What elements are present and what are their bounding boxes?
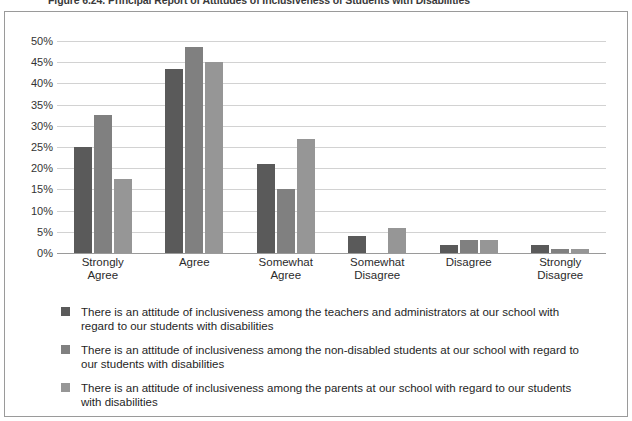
y-axis-tick-label: 10% (15, 205, 53, 216)
bar[interactable] (94, 115, 112, 253)
bar[interactable] (185, 47, 203, 253)
legend-item[interactable]: There is an attitude of inclusiveness am… (61, 343, 581, 371)
legend-swatch-icon (61, 383, 70, 392)
x-axis-category-label: StronglyAgree (57, 256, 149, 282)
y-axis-tick-label: 40% (15, 78, 53, 89)
y-axis-tick-label: 35% (15, 99, 53, 110)
bar[interactable] (74, 147, 92, 253)
y-axis-tick-label: 50% (15, 36, 53, 47)
x-axis-category-label: SomewhatDisagree (332, 256, 424, 282)
bar[interactable] (114, 179, 132, 253)
y-axis-tick-label: 30% (15, 120, 53, 131)
legend-swatch-icon (61, 307, 70, 316)
legend-item[interactable]: There is an attitude of inclusiveness am… (61, 381, 581, 409)
x-axis-category-line: Somewhat (332, 256, 424, 269)
bar[interactable] (440, 245, 458, 253)
bar-groups (57, 41, 606, 253)
bar[interactable] (165, 69, 183, 253)
x-axis-category-label: Disagree (423, 256, 515, 282)
y-axis-tick-label: 20% (15, 163, 53, 174)
bar[interactable] (480, 240, 498, 253)
x-axis-category-line: Agree (240, 269, 332, 282)
y-axis-tick-label: 0% (15, 248, 53, 259)
legend-item[interactable]: There is an attitude of inclusiveness am… (61, 305, 581, 333)
plot-area (57, 41, 606, 253)
bar[interactable] (551, 249, 569, 253)
x-axis-category-line: Disagree (423, 256, 515, 269)
x-axis-category-label: StronglyDisagree (515, 256, 607, 282)
x-axis-category-line: Agree (57, 269, 149, 282)
x-axis-category-label: SomewhatAgree (240, 256, 332, 282)
bar[interactable] (388, 228, 406, 253)
legend-swatch-icon (61, 345, 70, 354)
bar[interactable] (205, 62, 223, 253)
x-axis: StronglyAgreeAgreeSomewhatAgreeSomewhatD… (57, 256, 606, 282)
x-axis-category-line: Strongly (515, 256, 607, 269)
y-axis-tick-label: 5% (15, 226, 53, 237)
x-axis-category-line: Somewhat (240, 256, 332, 269)
bar-group (423, 41, 515, 253)
bar-group (515, 41, 607, 253)
bar[interactable] (297, 139, 315, 253)
bar[interactable] (571, 249, 589, 253)
y-axis-tick-label: 45% (15, 57, 53, 68)
y-axis-tick-label: 25% (15, 142, 53, 153)
legend-item-label: There is an attitude of inclusiveness am… (81, 343, 581, 371)
chart-legend: There is an attitude of inclusiveness am… (61, 305, 581, 419)
figure-caption: Figure 6.24. Principal Report of Attitud… (48, 0, 608, 7)
legend-item-label: There is an attitude of inclusiveness am… (81, 381, 581, 409)
bar[interactable] (277, 189, 295, 253)
y-axis: 0%5%10%15%20%25%30%35%40%45%50% (15, 41, 53, 253)
x-axis-category-line: Disagree (332, 269, 424, 282)
x-axis-category-line: Strongly (57, 256, 149, 269)
bar-group (149, 41, 241, 253)
chart-panel: 0%5%10%15%20%25%30%35%40%45%50% Strongly… (4, 11, 628, 417)
gridline (57, 253, 606, 254)
legend-item-label: There is an attitude of inclusiveness am… (81, 305, 581, 333)
y-axis-tick-label: 15% (15, 184, 53, 195)
x-axis-category-label: Agree (149, 256, 241, 282)
bar[interactable] (257, 164, 275, 253)
x-axis-category-line: Agree (149, 256, 241, 269)
bar-group (332, 41, 424, 253)
x-axis-category-line: Disagree (515, 269, 607, 282)
bar-group (240, 41, 332, 253)
bar[interactable] (348, 236, 366, 253)
bar[interactable] (460, 240, 478, 253)
bar[interactable] (531, 245, 549, 253)
bar-group (57, 41, 149, 253)
